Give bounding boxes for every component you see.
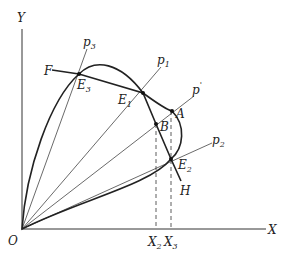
y-axis-label: Y bbox=[17, 11, 26, 25]
ray-p-prime-label: p' bbox=[192, 80, 202, 97]
point-E1 bbox=[141, 91, 145, 95]
point-E2 bbox=[169, 157, 173, 161]
ray-p1 bbox=[22, 67, 161, 229]
point-E3 bbox=[77, 72, 81, 76]
ray-p3-label: p3 bbox=[83, 35, 96, 51]
ray-p2-label: p2 bbox=[212, 133, 225, 149]
point-B-label: B bbox=[159, 120, 169, 134]
offer-curve-diagram: Y X O p3 p1 p' p2 F E3 E1 A B E2 H X2 X3 bbox=[0, 0, 291, 268]
point-A-label: A bbox=[175, 107, 185, 121]
ray-p1-label: p1 bbox=[157, 53, 170, 69]
point-A bbox=[170, 109, 174, 113]
offer-curve bbox=[22, 65, 182, 229]
point-F-label: F bbox=[43, 64, 53, 78]
point-E3-label: E3 bbox=[76, 78, 91, 94]
point-H-label: H bbox=[179, 184, 191, 198]
x-axis-label: X bbox=[267, 223, 277, 237]
tick-X2-label: X2 bbox=[147, 235, 162, 251]
point-E2-label: E2 bbox=[177, 158, 192, 174]
point-E1-label: E1 bbox=[117, 93, 132, 109]
tick-X3-label: X3 bbox=[163, 235, 178, 251]
origin-label: O bbox=[8, 234, 18, 248]
point-B bbox=[154, 122, 158, 126]
